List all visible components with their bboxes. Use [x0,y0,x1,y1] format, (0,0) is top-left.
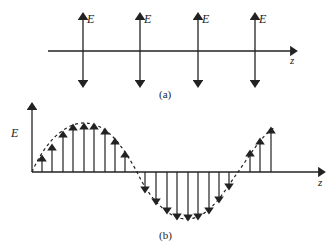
caption-a: (a) [159,88,171,100]
z-label-b: z [318,176,322,188]
figure: E E E E z (a) E z (b) [0,0,334,250]
z-label-a: z [290,54,294,66]
e-label-a2: E [144,12,151,27]
caption-b: (b) [159,229,172,241]
e-label-a3: E [202,12,209,27]
e-label-a4: E [259,12,266,27]
field-arrows-a [83,16,255,84]
sine-envelope [32,123,274,219]
e-label-a1: E [87,12,94,27]
e-label-b: E [11,126,18,141]
wave-diagram [0,0,334,250]
